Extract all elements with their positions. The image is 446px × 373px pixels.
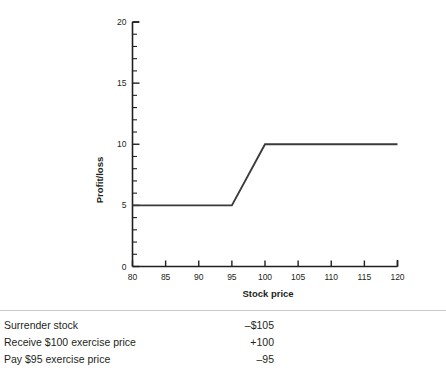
x-axis-tick-labels: 80859095100105110115120: [128, 272, 405, 282]
ledger-label: Receive $100 exercise price: [4, 336, 204, 348]
x-tick-label: 115: [358, 272, 372, 282]
payoff-chart-figure: 05101520 80859095100105110115120 Profit/…: [0, 0, 446, 310]
y-axis-ticks: [133, 22, 140, 267]
x-tick-label: 85: [161, 272, 171, 282]
table-row: Pay $95 exercise price –95: [4, 353, 442, 370]
ledger-label: Surrender stock: [4, 319, 204, 331]
y-axis-title: Profit/loss: [94, 157, 105, 203]
x-tick-label: 95: [227, 272, 237, 282]
table-row: Receive $100 exercise price +100: [4, 336, 442, 353]
ledger-label: Pay $95 exercise price: [4, 353, 204, 365]
y-tick-label: 20: [117, 17, 127, 27]
x-axis-title: Stock price: [242, 288, 293, 299]
profit-loss-line-chart: 05101520 80859095100105110115120 Profit/…: [0, 0, 446, 310]
y-tick-label: 15: [117, 78, 127, 88]
x-axis-ticks: [133, 261, 398, 267]
x-tick-label: 120: [390, 272, 404, 282]
y-tick-label: 0: [122, 262, 127, 272]
y-axis-tick-labels: 05101520: [117, 17, 127, 272]
x-tick-label: 100: [258, 272, 272, 282]
x-tick-label: 90: [194, 272, 204, 282]
cash-flow-ledger: Surrender stock –$105 Receive $100 exerc…: [0, 319, 446, 370]
y-tick-label: 10: [117, 139, 127, 149]
x-tick-label: 80: [128, 272, 138, 282]
x-tick-label: 105: [291, 272, 305, 282]
y-tick-label: 5: [122, 200, 127, 210]
ledger-value: +100: [204, 336, 274, 348]
ledger-value: –95: [204, 353, 274, 365]
section-divider: [0, 310, 446, 311]
x-tick-label: 110: [324, 272, 338, 282]
payoff-data-line: [133, 144, 398, 205]
ledger-value: –$105: [204, 319, 274, 331]
table-row: Surrender stock –$105: [4, 319, 442, 336]
